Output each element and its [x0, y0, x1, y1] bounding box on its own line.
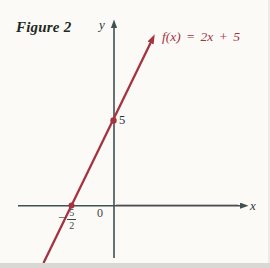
x-intercept-fraction: 5 2 — [67, 208, 76, 231]
x-intercept-minus-sign: − — [58, 211, 65, 224]
origin-label: 0 — [97, 207, 103, 219]
y-intercept-label: 5 — [119, 114, 125, 127]
function-equation-label: f(x) = 2x + 5 — [162, 30, 240, 44]
x-intercept-label: − 5 2 — [58, 208, 76, 231]
x-axis-label: x — [250, 199, 256, 212]
fraction-denominator: 2 — [68, 221, 75, 231]
fraction-numerator: 5 — [68, 208, 75, 218]
page-edge-bottom-shadow — [0, 263, 270, 268]
y-axis-label: y — [99, 18, 105, 31]
y-intercept-point — [110, 117, 116, 123]
figure-2-plot: Figure 2 y x 0 5 f(x) = 2x + 5 − 5 — [0, 0, 270, 268]
page-edge-right-shadow — [268, 0, 270, 268]
